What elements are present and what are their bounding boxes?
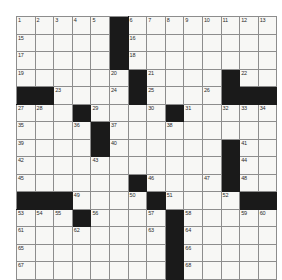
crossword-cell[interactable]	[202, 104, 221, 122]
crossword-cell[interactable]	[128, 104, 147, 122]
crossword-cell[interactable]	[184, 174, 203, 192]
crossword-cell[interactable]	[35, 69, 54, 87]
crossword-cell[interactable]: 57	[147, 209, 166, 227]
crossword-cell[interactable]	[35, 52, 54, 70]
crossword-cell[interactable]: 5	[91, 17, 110, 35]
crossword-cell[interactable]	[221, 52, 240, 70]
crossword-cell[interactable]: 44	[240, 157, 259, 175]
crossword-cell[interactable]: 8	[165, 17, 184, 35]
crossword-cell[interactable]	[258, 34, 277, 52]
crossword-cell[interactable]: 41	[240, 139, 259, 157]
crossword-cell[interactable]: 13	[258, 17, 277, 35]
crossword-cell[interactable]	[109, 244, 128, 262]
crossword-cell[interactable]	[35, 262, 54, 280]
crossword-cell[interactable]	[54, 157, 73, 175]
crossword-cell[interactable]: 48	[240, 174, 259, 192]
crossword-cell[interactable]	[258, 139, 277, 157]
crossword-cell[interactable]	[72, 69, 91, 87]
crossword-cell[interactable]	[54, 104, 73, 122]
crossword-cell[interactable]: 32	[221, 104, 240, 122]
crossword-cell[interactable]	[184, 69, 203, 87]
crossword-cell[interactable]: 42	[17, 157, 36, 175]
crossword-cell[interactable]	[184, 52, 203, 70]
crossword-cell[interactable]: 10	[202, 17, 221, 35]
crossword-cell[interactable]: 67	[17, 262, 36, 280]
crossword-cell[interactable]	[202, 262, 221, 280]
crossword-cell[interactable]	[35, 174, 54, 192]
crossword-cell[interactable]: 62	[72, 227, 91, 245]
crossword-cell[interactable]	[147, 52, 166, 70]
crossword-cell[interactable]	[184, 192, 203, 210]
crossword-cell[interactable]	[147, 139, 166, 157]
crossword-cell[interactable]	[91, 244, 110, 262]
crossword-cell[interactable]	[221, 227, 240, 245]
crossword-cell[interactable]: 20	[109, 69, 128, 87]
crossword-cell[interactable]	[91, 192, 110, 210]
crossword-cell[interactable]: 34	[258, 104, 277, 122]
crossword-cell[interactable]: 24	[109, 87, 128, 105]
crossword-cell[interactable]	[54, 52, 73, 70]
crossword-cell[interactable]	[184, 87, 203, 105]
crossword-cell[interactable]	[165, 174, 184, 192]
crossword-cell[interactable]: 35	[17, 122, 36, 140]
crossword-cell[interactable]: 60	[258, 209, 277, 227]
crossword-cell[interactable]	[202, 157, 221, 175]
crossword-cell[interactable]: 54	[35, 209, 54, 227]
crossword-cell[interactable]	[184, 34, 203, 52]
crossword-cell[interactable]: 28	[35, 104, 54, 122]
crossword-cell[interactable]	[54, 262, 73, 280]
crossword-cell[interactable]	[184, 139, 203, 157]
crossword-cell[interactable]: 19	[17, 69, 36, 87]
crossword-cell[interactable]	[147, 244, 166, 262]
crossword-cell[interactable]: 21	[147, 69, 166, 87]
crossword-cell[interactable]: 63	[147, 227, 166, 245]
crossword-cell[interactable]	[109, 157, 128, 175]
crossword-cell[interactable]	[202, 244, 221, 262]
crossword-cell[interactable]	[147, 157, 166, 175]
crossword-cell[interactable]	[258, 227, 277, 245]
crossword-cell[interactable]: 2	[35, 17, 54, 35]
crossword-cell[interactable]: 33	[240, 104, 259, 122]
crossword-cell[interactable]	[72, 87, 91, 105]
crossword-cell[interactable]: 4	[72, 17, 91, 35]
crossword-cell[interactable]	[165, 87, 184, 105]
crossword-cell[interactable]: 6	[128, 17, 147, 35]
crossword-cell[interactable]	[147, 262, 166, 280]
crossword-cell[interactable]: 38	[165, 122, 184, 140]
crossword-cell[interactable]: 47	[202, 174, 221, 192]
crossword-cell[interactable]	[221, 209, 240, 227]
crossword-cell[interactable]	[109, 192, 128, 210]
crossword-cell[interactable]	[258, 244, 277, 262]
crossword-cell[interactable]	[128, 244, 147, 262]
crossword-cell[interactable]: 58	[184, 209, 203, 227]
crossword-cell[interactable]	[54, 122, 73, 140]
crossword-cell[interactable]	[72, 34, 91, 52]
crossword-cell[interactable]	[109, 262, 128, 280]
crossword-cell[interactable]	[91, 227, 110, 245]
crossword-cell[interactable]	[258, 157, 277, 175]
crossword-cell[interactable]	[202, 192, 221, 210]
crossword-cell[interactable]	[72, 139, 91, 157]
crossword-cell[interactable]: 9	[184, 17, 203, 35]
crossword-cell[interactable]	[147, 122, 166, 140]
crossword-grid[interactable]: 1234567891011121315161718192021222324252…	[16, 16, 277, 280]
crossword-cell[interactable]	[91, 174, 110, 192]
crossword-cell[interactable]	[184, 157, 203, 175]
crossword-cell[interactable]	[72, 262, 91, 280]
crossword-cell[interactable]	[128, 157, 147, 175]
crossword-cell[interactable]	[72, 244, 91, 262]
crossword-cell[interactable]: 49	[72, 192, 91, 210]
crossword-cell[interactable]: 16	[128, 34, 147, 52]
crossword-cell[interactable]	[54, 34, 73, 52]
crossword-cell[interactable]: 51	[165, 192, 184, 210]
crossword-cell[interactable]	[35, 227, 54, 245]
crossword-cell[interactable]: 68	[184, 262, 203, 280]
crossword-cell[interactable]: 53	[17, 209, 36, 227]
crossword-cell[interactable]	[35, 157, 54, 175]
crossword-cell[interactable]: 27	[17, 104, 36, 122]
crossword-cell[interactable]	[202, 122, 221, 140]
crossword-cell[interactable]: 66	[184, 244, 203, 262]
crossword-cell[interactable]	[109, 174, 128, 192]
crossword-cell[interactable]	[91, 69, 110, 87]
crossword-cell[interactable]	[91, 87, 110, 105]
